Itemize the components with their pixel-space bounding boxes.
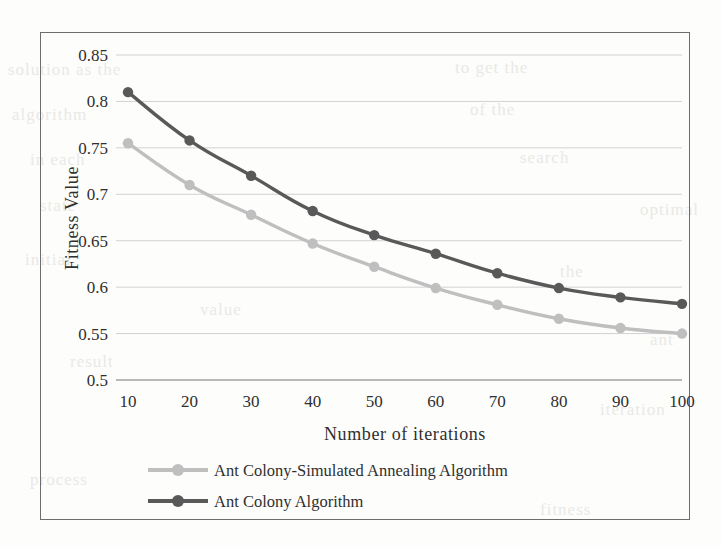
series-marker — [615, 323, 625, 333]
x-tick-label: 20 — [181, 392, 198, 411]
y-tick-label: 0.65 — [78, 232, 108, 251]
legend-label: Ant Colony Algorithm — [214, 492, 364, 511]
legend-label: Ant Colony-Simulated Annealing Algorithm — [214, 461, 508, 480]
series-marker — [615, 292, 625, 302]
series-marker — [369, 262, 379, 272]
series-marker — [431, 249, 441, 259]
y-axis-title-text: Fitness Value — [62, 166, 82, 270]
series-marker — [307, 206, 317, 216]
y-tick-label: 0.6 — [87, 278, 108, 297]
x-tick-label: 60 — [427, 392, 444, 411]
x-tick-label: 50 — [366, 392, 383, 411]
x-tick-label: 30 — [243, 392, 260, 411]
y-axis-title: Fitness Value — [62, 166, 82, 270]
y-tick-label: 0.75 — [78, 139, 108, 158]
series-marker — [369, 230, 379, 240]
series-marker — [677, 328, 687, 338]
figure-page: solution as theto get thealgorithmof the… — [0, 0, 722, 547]
series-marker — [492, 300, 502, 310]
y-tick-label: 0.7 — [87, 185, 109, 204]
series-marker — [677, 299, 687, 309]
x-axis-title: Number of iterations — [324, 424, 486, 444]
x-tick-label: 70 — [489, 392, 506, 411]
series-line — [128, 143, 682, 333]
series-marker — [431, 283, 441, 293]
series-marker — [123, 87, 133, 97]
gridlines — [116, 55, 682, 380]
fitness-value-line-chart: 0.50.550.60.650.70.750.80.85 10203040506… — [0, 0, 722, 547]
y-tick-label: 0.8 — [87, 92, 108, 111]
series-marker — [246, 210, 256, 220]
x-tick-label: 90 — [612, 392, 629, 411]
x-tick-label: 40 — [304, 392, 321, 411]
y-tick-label: 0.5 — [87, 371, 108, 390]
legend-marker-dot — [172, 495, 184, 507]
x-axis-tick-labels: 102030405060708090100 — [120, 392, 695, 411]
data-series — [123, 87, 687, 339]
x-tick-label: 80 — [550, 392, 567, 411]
series-marker — [554, 283, 564, 293]
x-axis-title-text: Number of iterations — [324, 424, 486, 444]
legend-marker-dot — [172, 464, 184, 476]
series-marker — [554, 314, 564, 324]
y-tick-label: 0.55 — [78, 325, 108, 344]
y-axis-tick-labels: 0.50.550.60.650.70.750.80.85 — [78, 46, 108, 390]
y-tick-label: 0.85 — [78, 46, 108, 65]
series-marker — [246, 171, 256, 181]
series-marker — [307, 238, 317, 248]
x-tick-label: 10 — [120, 392, 137, 411]
series-marker — [492, 268, 502, 278]
chart-legend: Ant Colony-Simulated Annealing Algorithm… — [148, 461, 508, 511]
series-marker — [184, 135, 194, 145]
x-tick-label: 100 — [669, 392, 695, 411]
series-marker — [123, 138, 133, 148]
series-marker — [184, 180, 194, 190]
